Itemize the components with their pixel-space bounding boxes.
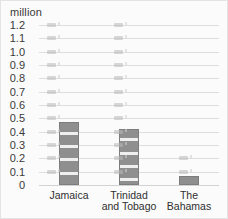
x-axis-category-label: Trinidad and Tobago [99, 190, 159, 212]
x-axis-category-label: The Bahamas [159, 190, 219, 212]
y-axis-tick-label: 1.0 [0, 46, 25, 58]
y-axis-tick-label: 0.6 [0, 99, 25, 111]
scan-artifact-mark [47, 63, 56, 67]
bar-gridline-band [60, 132, 78, 135]
scan-artifact-mark [47, 36, 56, 40]
plot-area: 1.21.11.00.90.80.70.60.50.40.30.20.10 [39, 25, 219, 185]
y-axis-tick-label: 0.3 [0, 139, 25, 151]
bar-gridline-band [60, 158, 78, 161]
y-axis-tick-label: 0.1 [0, 166, 25, 178]
y-axis-tick-label: 1.1 [0, 32, 25, 44]
bar-gridline-band [60, 145, 78, 148]
y-axis-tick-label: 0.7 [0, 86, 25, 98]
scan-artifact-mark [47, 76, 56, 80]
bar-gridline-band [120, 165, 138, 168]
scan-artifact-mark [47, 170, 56, 174]
scan-artifact-mark [47, 143, 56, 147]
gridline [39, 92, 219, 93]
y-axis-tick-label: 0.4 [0, 126, 25, 138]
y-axis-tick-label: 0.8 [0, 72, 25, 84]
x-axis-category-label: Jamaica [39, 190, 99, 201]
bar [59, 122, 79, 185]
scan-artifact-mark [114, 170, 123, 174]
gridline [39, 38, 219, 39]
scan-artifact-mark [179, 170, 188, 174]
bar-gridline-band [120, 152, 138, 155]
scan-artifact-mark [47, 116, 56, 120]
gridline [39, 105, 219, 106]
scan-artifact-mark [114, 116, 123, 120]
y-axis-tick-label: 0.9 [0, 59, 25, 71]
scan-artifact-mark [114, 90, 123, 94]
gridline [39, 52, 219, 53]
gridline [39, 25, 219, 26]
bar-chart: million 1.21.11.00.90.80.70.60.50.40.30.… [0, 0, 228, 219]
gridline [39, 65, 219, 66]
bar-gridline-band [60, 172, 78, 175]
scan-artifact-mark [114, 143, 123, 147]
y-axis-tick-label: 1.2 [0, 19, 25, 31]
bar-gridline-band [120, 138, 138, 141]
y-axis-tick-label: 0.5 [0, 112, 25, 124]
gridline [39, 78, 219, 79]
scan-artifact-mark [114, 156, 123, 160]
scan-artifact-mark [47, 90, 56, 94]
bar-gridline-band [120, 178, 138, 181]
gridline [39, 185, 219, 186]
scan-artifact-mark [114, 130, 123, 134]
scan-artifact-mark [114, 36, 123, 40]
bar [179, 176, 199, 185]
scan-artifact-mark [47, 23, 56, 27]
scan-artifact-mark [179, 156, 188, 160]
scan-artifact-mark [114, 103, 123, 107]
y-axis-tick-label: 0 [0, 179, 25, 191]
scan-artifact-mark [114, 76, 123, 80]
scan-artifact-mark [47, 103, 56, 107]
gridline [39, 118, 219, 119]
scan-artifact-mark [47, 50, 56, 54]
scan-artifact-mark [114, 63, 123, 67]
scan-artifact-mark [47, 130, 56, 134]
y-axis-unit-label: million [10, 6, 42, 18]
scan-artifact-mark [114, 50, 123, 54]
scan-artifact-mark [114, 23, 123, 27]
scan-artifact-mark [47, 156, 56, 160]
y-axis-tick-label: 0.2 [0, 152, 25, 164]
